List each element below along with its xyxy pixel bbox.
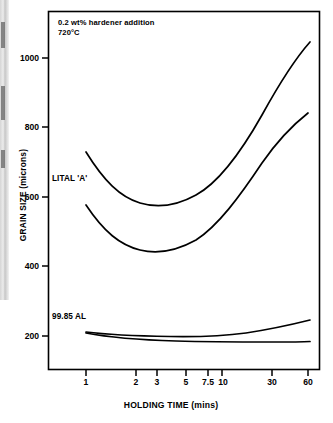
series-9985-al-upper (86, 320, 310, 337)
x-tick-label-3: 3 (145, 377, 169, 387)
series-lital-a-upper (86, 42, 310, 206)
x-tick-label-60: 60 (296, 377, 320, 387)
series-lital-a-lower (86, 113, 308, 252)
x-axis-ticks (86, 370, 308, 377)
plot-canvas (0, 0, 333, 423)
y-tick-label-200: 200 (5, 331, 39, 341)
series-label-9985-al: 99.85 AL (52, 312, 86, 321)
x-tick-label-10: 10 (211, 377, 235, 387)
annotation-line-1: 0.2 wt% hardener addition (58, 18, 155, 28)
chart-figure: 0.2 wt% hardener addition 720°C LITAL 'A… (0, 0, 333, 423)
x-tick-label-30: 30 (260, 377, 284, 387)
annotation-line-2: 720°C (58, 28, 155, 38)
series-label-lital-a: LITAL 'A' (52, 174, 87, 183)
y-axis-ticks (42, 58, 49, 336)
y-axis-title: GRAIN SIZE (microns) (18, 130, 28, 260)
x-axis-title: HOLDING TIME (mins) (96, 400, 246, 410)
y-tick-label-1000: 1000 (5, 53, 39, 63)
y-tick-label-400: 400 (5, 261, 39, 271)
x-tick-label-5: 5 (174, 377, 198, 387)
plot-frame (49, 12, 320, 370)
x-tick-label-1: 1 (74, 377, 98, 387)
chart-annotation: 0.2 wt% hardener addition 720°C (58, 18, 155, 37)
